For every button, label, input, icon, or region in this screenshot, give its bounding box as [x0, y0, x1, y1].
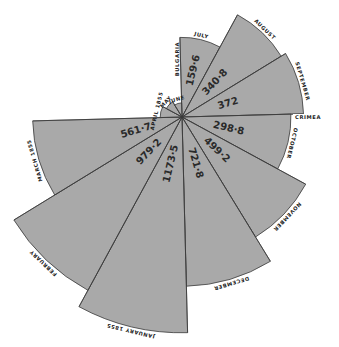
annotation-crimea: CRIMEA [295, 114, 321, 120]
annotation-bulgaria: BULGARIA [174, 42, 180, 76]
wedge-group [14, 15, 306, 333]
rose-diagram: 159·6340·8372298·8499·2721·81173·5979·25… [0, 0, 339, 347]
